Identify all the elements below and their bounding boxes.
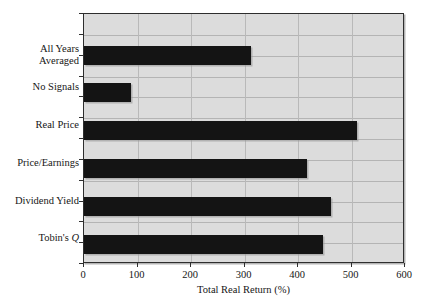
x-axis-title: Total Real Return (%): [83, 283, 404, 296]
bar-price-earnings: [84, 159, 307, 178]
y-tick: [79, 201, 83, 202]
bar-tobin-s-q: [84, 235, 323, 254]
y-tick: [79, 13, 83, 14]
x-tick-label-600: 600: [396, 268, 412, 281]
bar-dividend-yield: [84, 197, 331, 216]
bar-chart-figure: All Years Averaged No Signals Real Price…: [0, 0, 426, 305]
y-tick: [79, 221, 83, 222]
y-tick: [79, 159, 83, 160]
y-tick: [79, 117, 83, 118]
y-label-tobins-q-letter: Q: [71, 232, 79, 243]
x-tick-100: [137, 263, 138, 267]
x-tick-400: [297, 263, 298, 267]
y-tick: [79, 180, 83, 181]
y-axis-category-labels: All Years Averaged No Signals Real Price…: [0, 13, 79, 263]
x-tick-label-100: 100: [129, 268, 145, 281]
y-tick: [79, 76, 83, 77]
x-tick-300: [244, 263, 245, 267]
y-tick: [79, 34, 83, 35]
x-tick-label-300: 300: [236, 268, 252, 281]
y-tick: [79, 138, 83, 139]
y-label-real-price: Real Price: [0, 119, 79, 131]
y-label-dividend-yield: Dividend Yield: [0, 195, 79, 207]
y-label-price-earnings: Price/Earnings: [0, 157, 79, 169]
x-tick-200: [190, 263, 191, 267]
x-tick-600: [404, 263, 405, 267]
x-axis-tick-labels: 0100200300400500600: [83, 268, 404, 282]
y-tick: [79, 55, 83, 56]
y-label-all-years-line1: All Years: [40, 43, 79, 54]
bar-real-price: [84, 121, 357, 140]
y-label-no-signals: No Signals: [0, 81, 79, 93]
x-tick-label-500: 500: [343, 268, 359, 281]
y-label-all-years-line2: Averaged: [0, 55, 79, 67]
y-label-tobins-q: Tobin's Q: [0, 232, 79, 244]
y-label-all-years-averaged: All Years Averaged: [0, 43, 79, 66]
bar-no-signals: [84, 83, 131, 102]
y-tick: [79, 242, 83, 243]
plot-area: [83, 13, 404, 263]
x-tick-label-400: 400: [289, 268, 305, 281]
x-tick-label-200: 200: [182, 268, 198, 281]
y-tick: [79, 96, 83, 97]
y-label-tobins-text: Tobin's: [38, 232, 71, 243]
bars-layer: [84, 14, 403, 262]
x-tick-500: [351, 263, 352, 267]
bar-all-years-averaged: [84, 46, 251, 65]
x-tick-0: [83, 263, 84, 267]
x-tick-label-0: 0: [80, 268, 85, 281]
